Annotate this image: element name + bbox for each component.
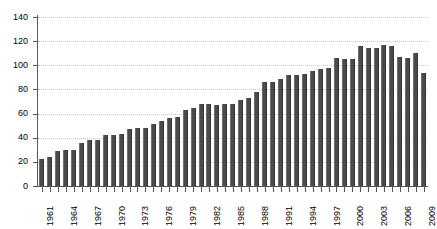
bar — [206, 104, 211, 186]
bar — [294, 75, 299, 186]
bar-slot — [356, 17, 364, 186]
bar — [326, 68, 331, 186]
bar — [199, 104, 204, 186]
bar-slot — [420, 17, 428, 186]
y-tick-label: 20 — [18, 157, 28, 166]
bar-slot — [141, 17, 149, 186]
x-tick-label: 1985 — [237, 206, 246, 226]
plot-area — [38, 17, 428, 186]
bar-slot — [157, 17, 165, 186]
y-tick-label: 100 — [13, 61, 28, 70]
x-tick-label: 1979 — [189, 206, 198, 226]
bar — [151, 124, 156, 186]
bar — [143, 128, 148, 186]
bar — [71, 150, 76, 186]
bar-series — [38, 17, 428, 186]
bar — [302, 74, 307, 186]
bar-slot — [102, 17, 110, 186]
bar-slot — [173, 17, 181, 186]
bar-slot — [86, 17, 94, 186]
bar-slot — [269, 17, 277, 186]
bar — [79, 143, 84, 186]
bar-slot — [78, 17, 86, 186]
bar — [246, 98, 251, 186]
bar — [286, 75, 291, 186]
bar-slot — [388, 17, 396, 186]
x-tick-label: 2003 — [380, 206, 389, 226]
bar-slot — [54, 17, 62, 186]
bar-slot — [253, 17, 261, 186]
bar-slot — [46, 17, 54, 186]
bar — [358, 46, 363, 186]
bar — [381, 45, 386, 186]
bar — [270, 82, 275, 186]
bar-slot — [237, 17, 245, 186]
bar-slot — [205, 17, 213, 186]
bar — [127, 129, 132, 186]
bar-slot — [380, 17, 388, 186]
bar-slot — [181, 17, 189, 186]
bar — [278, 79, 283, 186]
bar-slot — [348, 17, 356, 186]
bar-slot — [38, 17, 46, 186]
bar — [95, 140, 100, 186]
bar — [55, 151, 60, 186]
bar — [366, 48, 371, 186]
bar — [111, 135, 116, 186]
x-tick-label: 1982 — [213, 206, 222, 226]
bar-slot — [94, 17, 102, 186]
bar-slot — [62, 17, 70, 186]
bar — [238, 100, 243, 186]
x-tick-label: 1988 — [261, 206, 270, 226]
bar-slot — [364, 17, 372, 186]
bar-slot — [308, 17, 316, 186]
bar — [103, 135, 108, 186]
bar — [159, 121, 164, 186]
bar-slot — [189, 17, 197, 186]
bar — [342, 59, 347, 186]
y-tick-label: 60 — [18, 109, 28, 118]
bar — [135, 128, 140, 186]
bar-slot — [396, 17, 404, 186]
x-tick-label: 1961 — [46, 206, 55, 226]
bar — [310, 71, 315, 186]
bar — [397, 57, 402, 186]
bar-slot — [340, 17, 348, 186]
bar-slot — [332, 17, 340, 186]
bar — [421, 73, 426, 186]
bar-slot — [70, 17, 78, 186]
bar-slot — [277, 17, 285, 186]
bar-slot — [221, 17, 229, 186]
y-tick-label: 80 — [18, 85, 28, 94]
y-tick-label: 120 — [13, 37, 28, 46]
bar-slot — [300, 17, 308, 186]
x-tick-label: 1994 — [309, 206, 318, 226]
bar-slot — [125, 17, 133, 186]
bar-slot — [316, 17, 324, 186]
bar-slot — [261, 17, 269, 186]
bar — [183, 110, 188, 186]
y-tick-label: 140 — [13, 13, 28, 22]
bar — [119, 134, 124, 186]
bar — [214, 105, 219, 186]
bar-slot — [285, 17, 293, 186]
bar-slot — [293, 17, 301, 186]
bar-slot — [213, 17, 221, 186]
x-tick-label: 1991 — [285, 206, 294, 226]
x-axis-labels: 1961196419671970197319761979198219851988… — [38, 192, 428, 229]
bar-slot — [197, 17, 205, 186]
bar-slot — [245, 17, 253, 186]
bar — [175, 117, 180, 186]
bar-slot — [229, 17, 237, 186]
bar — [230, 104, 235, 186]
bar-slot — [118, 17, 126, 186]
y-tick-label: 40 — [18, 133, 28, 142]
bar — [374, 48, 379, 186]
x-tick-label: 2009 — [428, 206, 437, 226]
bar — [262, 82, 267, 186]
x-tick-label: 1973 — [141, 206, 150, 226]
bar — [413, 53, 418, 186]
bar — [254, 92, 259, 186]
x-tick-label: 1997 — [333, 206, 342, 226]
bar — [167, 118, 172, 186]
